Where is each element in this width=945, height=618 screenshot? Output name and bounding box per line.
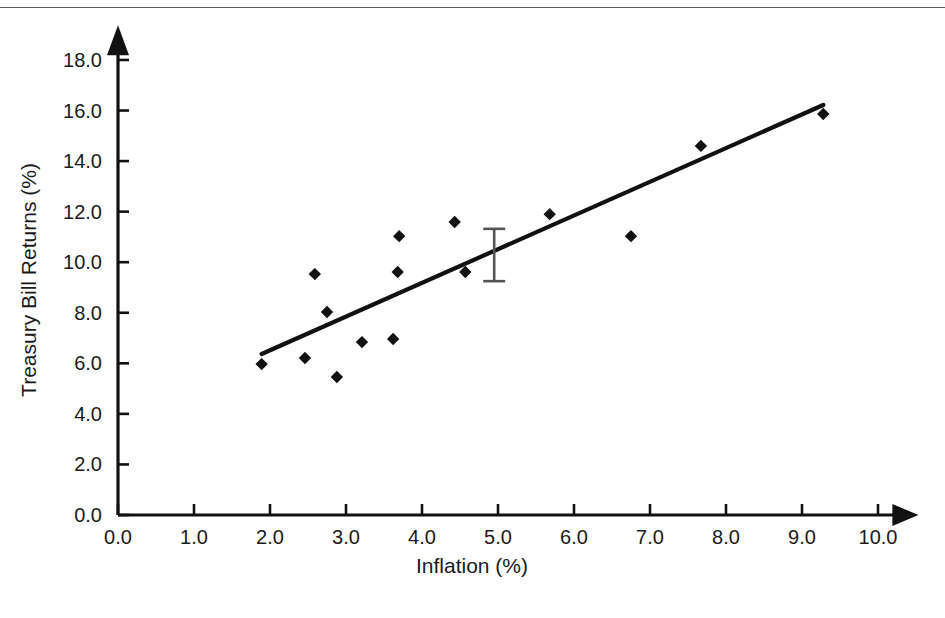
x-tick-label: 5.0 (484, 526, 512, 548)
y-tick-label: 10.0 (63, 251, 102, 273)
tick-marks-group (118, 60, 878, 515)
x-tick-label: 8.0 (712, 526, 740, 548)
x-tick-label: 9.0 (788, 526, 816, 548)
y-axis-arrow-icon (107, 25, 129, 55)
data-point-marker (321, 306, 333, 318)
data-point-marker (309, 268, 321, 280)
data-point-marker (543, 208, 555, 220)
y-tick-label: 12.0 (63, 201, 102, 223)
x-tick-label: 10.0 (859, 526, 898, 548)
data-point-marker (448, 216, 460, 228)
scatter-plot: 0.01.02.03.04.05.06.07.08.09.010.0 0.02.… (0, 0, 945, 618)
y-tick-label: 2.0 (74, 453, 102, 475)
x-axis-arrow-icon (892, 504, 918, 526)
y-tick-label: 4.0 (74, 403, 102, 425)
x-tick-label: 4.0 (408, 526, 436, 548)
data-point-marker (625, 230, 637, 242)
data-point-marker (331, 371, 343, 383)
trend-line-segment (262, 105, 824, 354)
x-tick-label: 2.0 (256, 526, 284, 548)
x-tick-label: 6.0 (560, 526, 588, 548)
x-tick-label: 0.0 (104, 526, 132, 548)
x-tick-labels-group: 0.01.02.03.04.05.06.07.08.09.010.0 (104, 526, 897, 548)
regression-trend-line (262, 105, 824, 354)
figure-container: 0.01.02.03.04.05.06.07.08.09.010.0 0.02.… (0, 0, 945, 618)
y-tick-label: 0.0 (74, 504, 102, 526)
x-tick-label: 7.0 (636, 526, 664, 548)
data-point-marker (393, 230, 405, 242)
x-tick-label: 1.0 (180, 526, 208, 548)
y-tick-label: 6.0 (74, 352, 102, 374)
data-point-marker (299, 352, 311, 364)
y-tick-label: 16.0 (63, 100, 102, 122)
x-tick-label: 3.0 (332, 526, 360, 548)
data-point-markers (255, 108, 829, 383)
y-axis-title: Treasury Bill Returns (%) (17, 163, 40, 397)
data-point-marker (255, 358, 267, 370)
data-point-marker (817, 108, 829, 120)
data-point-marker (356, 336, 368, 348)
data-point-marker (387, 333, 399, 345)
y-tick-label: 14.0 (63, 150, 102, 172)
axes-group (107, 25, 918, 526)
x-axis-title: Inflation (%) (416, 554, 528, 577)
y-tick-label: 18.0 (63, 49, 102, 71)
data-point-marker (695, 140, 707, 152)
y-tick-label: 8.0 (74, 302, 102, 324)
y-tick-labels-group: 0.02.04.06.08.010.012.014.016.018.0 (63, 49, 102, 526)
data-point-marker (391, 266, 403, 278)
